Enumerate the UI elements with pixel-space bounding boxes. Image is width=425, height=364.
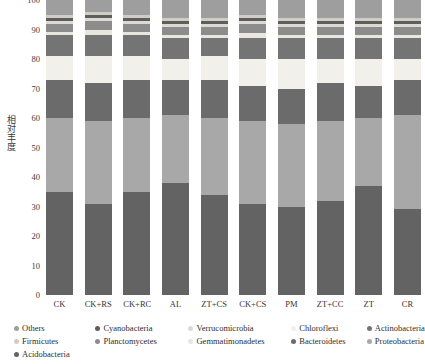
y-axis-tick: 80 xyxy=(32,55,41,64)
bar-segment xyxy=(278,124,305,207)
bar-segment xyxy=(201,80,228,118)
bar-segment xyxy=(239,38,266,59)
bar-segment xyxy=(85,121,112,204)
bar-column[interactable] xyxy=(317,0,344,295)
bar-segment xyxy=(46,24,73,33)
bar-segment xyxy=(278,207,305,296)
bar-column[interactable] xyxy=(46,0,73,295)
legend-item[interactable]: Chloroflexi xyxy=(291,322,367,335)
bar-segment xyxy=(46,0,73,15)
bar-segment xyxy=(239,24,266,33)
bar-segment xyxy=(355,86,382,118)
x-axis-tick-labels: CKCK+RSCK+RCALZT+CSCK+CSPMZT+CCZTCR xyxy=(46,299,421,309)
bars-container xyxy=(46,0,421,295)
legend-item[interactable]: Verrucomicrobia xyxy=(188,322,291,335)
bar-segment xyxy=(85,35,112,56)
legend-item[interactable]: Acidobacteria xyxy=(14,348,98,361)
bar-segment xyxy=(394,38,421,59)
legend-item[interactable]: Gemmatimonadetes xyxy=(188,335,291,348)
legend-row: Acidobacteria xyxy=(14,348,425,361)
bar-stack xyxy=(317,0,344,295)
legend-swatch-icon xyxy=(367,339,372,344)
bar-segment xyxy=(394,0,421,18)
bar-column[interactable] xyxy=(201,0,228,295)
legend-item[interactable]: Proteobacteria xyxy=(367,335,425,348)
legend-item[interactable]: Bacteroidetes xyxy=(291,335,367,348)
bar-segment xyxy=(162,27,189,36)
legend-label: Firmicutes xyxy=(22,337,58,346)
bar-column[interactable] xyxy=(394,0,421,295)
legend-swatch-icon xyxy=(188,339,193,344)
x-axis-tick: CK xyxy=(46,299,73,309)
bar-segment xyxy=(355,186,382,295)
bar-segment xyxy=(355,0,382,18)
bar-segment xyxy=(355,59,382,86)
bar-segment xyxy=(317,201,344,295)
legend-swatch-icon xyxy=(95,326,100,331)
legend-swatch-icon xyxy=(188,326,193,331)
bar-column[interactable] xyxy=(123,0,150,295)
bar-segment xyxy=(317,59,344,83)
bar-segment xyxy=(162,115,189,183)
legend-item[interactable]: Actinobacteria xyxy=(367,322,425,335)
bar-segment xyxy=(239,121,266,204)
bar-stack xyxy=(123,0,150,295)
bar-segment xyxy=(123,0,150,15)
bar-segment xyxy=(317,0,344,18)
bar-segment xyxy=(317,83,344,121)
x-axis-tick: CK+RC xyxy=(123,299,150,309)
y-axis-tick: 100 xyxy=(27,0,40,4)
x-axis-tick: ZT xyxy=(355,299,382,309)
x-axis-tick: ZT+CS xyxy=(201,299,228,309)
y-axis-tick: 90 xyxy=(32,25,41,34)
y-axis-tick: 70 xyxy=(32,84,41,93)
bar-segment xyxy=(239,0,266,15)
bar-segment xyxy=(123,56,150,80)
bar-segment xyxy=(201,118,228,195)
bar-segment xyxy=(355,118,382,186)
bar-segment xyxy=(162,0,189,18)
bar-column[interactable] xyxy=(355,0,382,295)
bar-segment xyxy=(317,38,344,59)
legend-label: Chloroflexi xyxy=(299,324,338,333)
bar-segment xyxy=(201,56,228,80)
y-axis-tick: 50 xyxy=(32,143,41,152)
bar-segment xyxy=(278,0,305,18)
bar-stack xyxy=(85,0,112,295)
bar-segment xyxy=(162,80,189,115)
bar-segment xyxy=(317,121,344,201)
bar-segment xyxy=(239,86,266,121)
legend-item[interactable]: Others xyxy=(14,322,95,335)
bar-segment xyxy=(85,56,112,83)
bar-stack xyxy=(239,0,266,295)
bar-segment xyxy=(355,27,382,36)
bar-column[interactable] xyxy=(278,0,305,295)
bar-segment xyxy=(317,27,344,36)
bar-segment xyxy=(46,80,73,118)
y-axis-title: 相对丰度 xyxy=(2,115,16,151)
bar-segment xyxy=(123,24,150,33)
plot-area: 相对丰度 0102030405060708090100 CKCK+RSCK+RC… xyxy=(0,0,425,318)
legend-item[interactable]: Cyanobacteria xyxy=(95,322,188,335)
x-axis-tick: PM xyxy=(278,299,305,309)
bar-column[interactable] xyxy=(85,0,112,295)
bar-column[interactable] xyxy=(239,0,266,295)
bar-segment xyxy=(85,0,112,12)
legend-swatch-icon xyxy=(95,339,100,344)
legend-swatch-icon xyxy=(14,352,19,357)
chart-legend: OthersCyanobacteriaVerrucomicrobiaChloro… xyxy=(0,322,425,364)
bar-segment xyxy=(46,192,73,295)
bar-segment xyxy=(162,38,189,59)
y-axis-tick: 30 xyxy=(32,202,41,211)
bar-column[interactable] xyxy=(162,0,189,295)
bar-segment xyxy=(123,118,150,192)
legend-row: OthersCyanobacteriaVerrucomicrobiaChloro… xyxy=(14,322,425,335)
legend-item[interactable]: Planctomycetes xyxy=(95,335,188,348)
legend-label: Others xyxy=(22,324,45,333)
legend-swatch-icon xyxy=(14,326,19,331)
bar-segment xyxy=(239,59,266,86)
bar-stack xyxy=(394,0,421,295)
legend-item[interactable]: Firmicutes xyxy=(14,335,95,348)
legend-label: Proteobacteria xyxy=(375,337,424,346)
x-axis-tick: CK+CS xyxy=(239,299,266,309)
